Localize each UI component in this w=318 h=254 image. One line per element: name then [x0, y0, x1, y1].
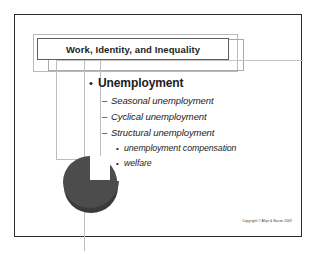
- bullet-label: welfare: [124, 158, 304, 169]
- slide-title: Work, Identity, and Inequality: [66, 44, 200, 55]
- bullet-item-cyclical-unemployment: – Cyclical unemployment: [102, 111, 304, 123]
- bullet-label: unemployment compensation: [124, 143, 304, 154]
- bullet-label: Cyclical unemployment: [111, 111, 304, 123]
- bullet-item-unemployment-compensation: • unemployment compensation: [116, 143, 304, 154]
- bullet-item-welfare: • welfare: [116, 158, 304, 169]
- slide-body-content: • Unemployment – Seasonal unemployment –…: [89, 77, 304, 173]
- bullet-item-structural-unemployment: – Structural unemployment: [102, 127, 304, 139]
- bullet-label: Unemployment: [98, 77, 304, 90]
- pie-chart-exploded-slice: [90, 181, 119, 206]
- copyright-notice: Copyright © Allyn & Bacon 2009: [242, 219, 292, 223]
- bullet-marker-icon: •: [116, 143, 124, 154]
- dash-marker-icon: –: [102, 127, 111, 139]
- bullet-label: Seasonal unemployment: [111, 95, 304, 107]
- slide-canvas: Work, Identity, and Inequality • Unemplo…: [0, 0, 318, 254]
- pie-chart-icon: [63, 156, 119, 214]
- dash-marker-icon: –: [102, 95, 111, 107]
- pie-chart-notch: [90, 156, 110, 180]
- bullet-item-unemployment: • Unemployment: [89, 77, 304, 90]
- slide-title-box: Work, Identity, and Inequality: [37, 38, 229, 60]
- horizontal-guide-line: [56, 60, 303, 61]
- dash-marker-icon: –: [102, 111, 111, 123]
- bullet-label: Structural unemployment: [111, 127, 304, 139]
- slide-border: Work, Identity, and Inequality • Unemplo…: [14, 14, 302, 237]
- bullet-item-seasonal-unemployment: – Seasonal unemployment: [102, 95, 304, 107]
- bullet-marker-icon: •: [89, 77, 98, 90]
